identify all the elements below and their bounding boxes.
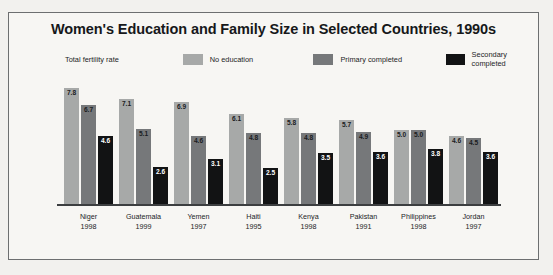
bar-value-label: 4.6 xyxy=(191,138,206,145)
x-axis-label: Kenya1998 xyxy=(281,212,336,233)
x-axis-label: Yemen1997 xyxy=(171,212,226,233)
bar-value-label: 5.0 xyxy=(411,132,426,139)
bar-group: 6.14.82.5 xyxy=(226,82,281,206)
x-axis-country: Kenya xyxy=(281,212,336,222)
bar-value-label: 3.5 xyxy=(318,155,333,162)
bar: 2.5 xyxy=(263,168,278,206)
bar: 3.1 xyxy=(208,159,223,206)
legend-axis-label: Total fertility rate xyxy=(65,55,183,64)
legend-item-secondary-completed: Secondary completed xyxy=(446,50,538,68)
legend-swatch-no-education xyxy=(183,54,203,65)
bar-value-label: 2.6 xyxy=(153,169,168,176)
x-axis-year: 1998 xyxy=(391,222,446,232)
x-axis-year: 1998 xyxy=(61,222,116,232)
bar: 3.6 xyxy=(483,152,498,206)
bar-groups: 7.86.74.67.15.12.66.94.63.16.14.82.55.84… xyxy=(61,82,501,206)
bar: 7.8 xyxy=(64,88,79,206)
bar-group: 7.15.12.6 xyxy=(116,82,171,206)
x-axis-year: 1999 xyxy=(116,222,171,232)
bar: 6.7 xyxy=(81,105,96,206)
bar-value-label: 5.1 xyxy=(136,131,151,138)
plot-area: 7.86.74.67.15.12.66.94.63.16.14.82.55.84… xyxy=(61,82,501,206)
bar-group: 7.86.74.6 xyxy=(61,82,116,206)
x-axis-year: 1997 xyxy=(171,222,226,232)
bar: 4.6 xyxy=(98,136,113,206)
bar-value-label: 7.1 xyxy=(119,101,134,108)
bar: 4.6 xyxy=(449,136,464,206)
legend-label-no-education: No education xyxy=(210,55,254,64)
chart-title: Women's Education and Family Size in Sel… xyxy=(9,21,538,37)
bar: 4.9 xyxy=(356,132,371,206)
legend-item-no-education: No education xyxy=(183,54,314,65)
bar: 5.0 xyxy=(394,130,409,206)
bar-group: 6.94.63.1 xyxy=(171,82,226,206)
bar-value-label: 5.7 xyxy=(339,122,354,129)
x-axis-year: 1991 xyxy=(336,222,391,232)
x-axis-label: Pakistan1991 xyxy=(336,212,391,233)
legend-swatch-primary-completed xyxy=(313,54,333,65)
bar: 4.6 xyxy=(191,136,206,206)
x-axis-label: Haiti1995 xyxy=(226,212,281,233)
bar: 4.8 xyxy=(301,133,316,206)
x-axis-label: Jordan1997 xyxy=(446,212,501,233)
legend-swatch-secondary-completed xyxy=(446,54,465,65)
bar: 3.8 xyxy=(428,149,443,206)
x-axis-label: Philippines1998 xyxy=(391,212,446,233)
legend-label-secondary-completed: Secondary completed xyxy=(472,50,538,68)
bar-value-label: 4.6 xyxy=(449,138,464,145)
bar: 5.8 xyxy=(284,118,299,206)
bar-value-label: 3.6 xyxy=(483,154,498,161)
bar-group: 5.05.03.8 xyxy=(391,82,446,206)
bar-value-label: 5.8 xyxy=(284,120,299,127)
bar: 5.7 xyxy=(339,120,354,206)
bar: 4.5 xyxy=(466,138,481,206)
bar-group: 4.64.53.6 xyxy=(446,82,501,206)
bar-value-label: 5.0 xyxy=(394,132,409,139)
x-axis-year: 1995 xyxy=(226,222,281,232)
bar-value-label: 7.8 xyxy=(64,90,79,97)
x-axis-country: Philippines xyxy=(391,212,446,222)
x-axis-year: 1997 xyxy=(446,222,501,232)
bar-value-label: 6.1 xyxy=(229,116,244,123)
bar: 5.0 xyxy=(411,130,426,206)
bar-value-label: 6.9 xyxy=(174,104,189,111)
x-axis-country: Niger xyxy=(61,212,116,222)
chart-figure: Women's Education and Family Size in Sel… xyxy=(8,12,539,260)
legend-item-primary-completed: Primary completed xyxy=(313,54,446,65)
bar: 6.9 xyxy=(174,102,189,206)
bar-value-label: 4.5 xyxy=(466,140,481,147)
bar-value-label: 2.5 xyxy=(263,170,278,177)
legend-label-primary-completed: Primary completed xyxy=(340,55,402,64)
bar: 7.1 xyxy=(119,99,134,206)
x-axis-labels: Niger1998Guatemala1999Yemen1997Haiti1995… xyxy=(61,206,501,233)
bar: 6.1 xyxy=(229,114,244,206)
bar-value-label: 3.8 xyxy=(428,151,443,158)
bar: 5.1 xyxy=(136,129,151,206)
bar-group: 5.84.83.5 xyxy=(281,82,336,206)
x-axis-year: 1998 xyxy=(281,222,336,232)
x-axis-label: Niger1998 xyxy=(61,212,116,233)
bar-value-label: 3.6 xyxy=(373,154,388,161)
bar-value-label: 4.8 xyxy=(301,135,316,142)
x-axis-label: Guatemala1999 xyxy=(116,212,171,233)
bar-value-label: 3.1 xyxy=(208,161,223,168)
bar: 3.5 xyxy=(318,153,333,206)
bar-value-label: 6.7 xyxy=(81,107,96,114)
x-axis-country: Pakistan xyxy=(336,212,391,222)
bar-value-label: 4.8 xyxy=(246,135,261,142)
chart-legend: Total fertility rate No education Primar… xyxy=(9,50,538,68)
x-axis-country: Guatemala xyxy=(116,212,171,222)
bar: 3.6 xyxy=(373,152,388,206)
bar-value-label: 4.9 xyxy=(356,134,371,141)
bar-value-label: 4.6 xyxy=(98,138,113,145)
bar-group: 5.74.93.6 xyxy=(336,82,391,206)
x-axis-country: Haiti xyxy=(226,212,281,222)
bar: 2.6 xyxy=(153,167,168,206)
x-axis-line xyxy=(57,204,501,206)
x-axis-country: Jordan xyxy=(446,212,501,222)
bar: 4.8 xyxy=(246,133,261,206)
x-axis-country: Yemen xyxy=(171,212,226,222)
